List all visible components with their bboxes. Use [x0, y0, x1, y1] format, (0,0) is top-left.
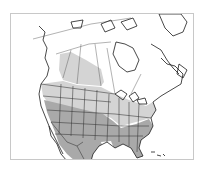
greenland [159, 14, 187, 36]
caribbean-islands [151, 152, 165, 156]
arctic-islands [71, 18, 137, 32]
range-map [11, 14, 194, 160]
map-frame [10, 13, 194, 160]
hudson-bay [113, 42, 139, 72]
